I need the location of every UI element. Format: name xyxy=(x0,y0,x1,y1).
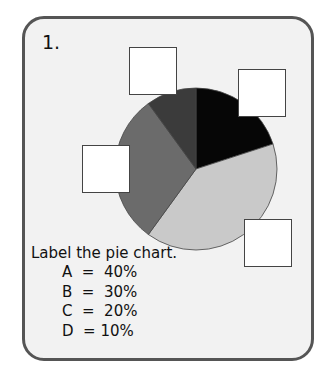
answer-box-top-right[interactable] xyxy=(238,69,286,117)
answer-box-bottom-right[interactable] xyxy=(244,219,292,267)
legend: A = 40% B = 30% C = 20% D = 10% xyxy=(62,263,137,341)
answer-box-left[interactable] xyxy=(82,145,130,193)
legend-row-a: A = 40% xyxy=(62,263,137,283)
legend-row-d: D = 10% xyxy=(62,322,137,342)
answer-box-top-left[interactable] xyxy=(129,47,177,95)
instruction-text: Label the pie chart. xyxy=(31,244,177,262)
legend-row-c: C = 20% xyxy=(62,302,137,322)
legend-row-b: B = 30% xyxy=(62,283,137,303)
